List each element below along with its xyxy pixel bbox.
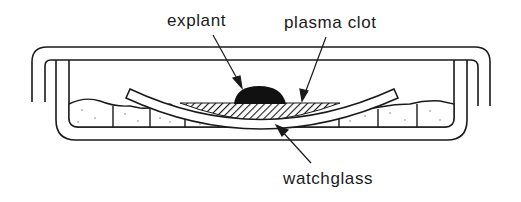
explant: [234, 86, 286, 104]
label-explant: explant: [167, 12, 226, 29]
label-watchglass: watchglass: [283, 170, 373, 187]
label-plasma-clot: plasma clot: [284, 14, 377, 31]
diagram-figure: [0, 0, 521, 202]
